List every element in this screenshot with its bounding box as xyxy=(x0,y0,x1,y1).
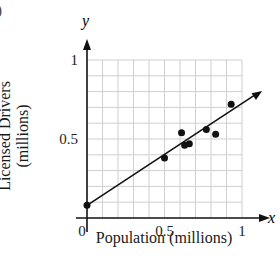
data-point xyxy=(228,101,235,108)
y-tick-label: 1 xyxy=(71,52,79,68)
y-axis-label-line-2: (millions) xyxy=(14,81,32,191)
chart-canvas: x y 00.510.51 xyxy=(0,0,280,259)
x-axis-label: Population (millions) xyxy=(96,229,232,247)
data-point xyxy=(161,154,168,161)
y-tick-label: 0.5 xyxy=(59,131,78,147)
intercept-point xyxy=(84,202,91,209)
regression-line xyxy=(87,94,256,205)
y-axis-label-line-1: Licensed Drivers xyxy=(0,81,14,191)
x-tick-label: 1 xyxy=(238,223,246,239)
data-point xyxy=(212,131,219,138)
y-axis-label: Licensed Drivers (millions) xyxy=(0,81,32,191)
data-points xyxy=(161,101,235,162)
trend-line xyxy=(84,91,263,209)
y-axis-variable: y xyxy=(80,12,90,30)
axes: x y xyxy=(76,12,275,232)
trend-arrow-icon xyxy=(252,91,263,100)
grid-lines xyxy=(87,60,242,218)
data-point xyxy=(178,129,185,136)
y-axis-arrow-icon xyxy=(83,39,91,50)
x-axis-variable: x xyxy=(267,209,275,226)
data-point xyxy=(203,126,210,133)
data-point xyxy=(186,140,193,147)
x-tick-label: 0 xyxy=(78,223,86,239)
